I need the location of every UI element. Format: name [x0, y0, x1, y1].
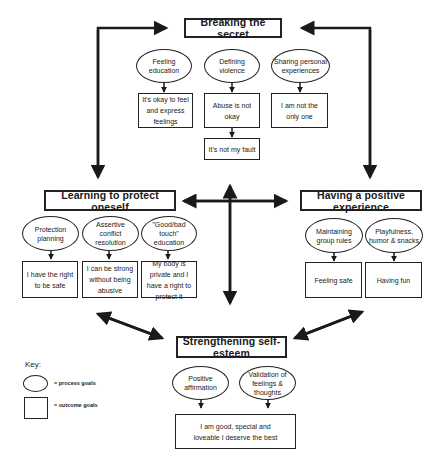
process-goal-validation: Validation of feelings & thoughts — [239, 366, 296, 400]
process-goal-sharing-experiences: Sharing personal experiences — [271, 49, 330, 83]
node-learning-to-protect-oneself: Learning to protect oneself — [44, 190, 176, 211]
outcome-goal-abuse-not-okay: Abuse is not okay — [204, 93, 260, 128]
outcome-goal-right-to-be-safe: I have the right to be safe — [22, 261, 78, 298]
outcome-goal-feeling-safe: Feeling safe — [305, 262, 362, 298]
outcome-goal-having-fun: Having fun — [365, 262, 422, 298]
outcome-goal-good-special-loveable: I am good, special and loveable I deserv… — [175, 414, 296, 449]
process-goal-feeling-education: Feeling education — [136, 49, 192, 83]
process-goal-defining-violence: Defining violence — [204, 49, 260, 83]
key-label-outcome-goals: = outcome goals — [54, 400, 114, 410]
outcome-goal-okay-to-feel: It's okay to feel and express feelings — [138, 93, 193, 128]
node-breaking-the-secret: Breaking the secret — [184, 18, 282, 38]
key-label-process-goals: = process goals — [54, 378, 114, 388]
outcome-goal-strong-not-abusive: I can be strong without being abusive — [82, 261, 138, 298]
process-goal-protection-planning: Protection planning — [22, 216, 79, 251]
outcome-goal-body-private: My body is private and I have a right to… — [141, 261, 197, 298]
key-rectangle-icon — [24, 397, 48, 419]
key-ellipse-icon — [23, 375, 48, 392]
outcome-goal-not-my-fault: It's not my fault — [204, 138, 260, 160]
process-goal-good-bad-touch: "Good/bad touch" education — [141, 216, 197, 251]
diagram-canvas: Breaking the secret Feeling education De… — [0, 0, 443, 466]
process-goal-playfulness: Playfulness, humor & snacks — [365, 218, 423, 253]
process-goal-assertive-conflict: Assertive conflict resolution — [82, 216, 139, 251]
key-title: Key: — [25, 358, 65, 370]
node-strengthening-self-esteem: Strengthening self-esteem — [176, 336, 287, 358]
process-goal-group-rules: Maintaining group rules — [305, 218, 363, 253]
node-having-positive-experience: Having a positive experience — [300, 190, 422, 211]
outcome-goal-not-only-one: I am not the only one — [271, 93, 328, 128]
process-goal-positive-affirmation: Positive affirmation — [172, 366, 229, 400]
